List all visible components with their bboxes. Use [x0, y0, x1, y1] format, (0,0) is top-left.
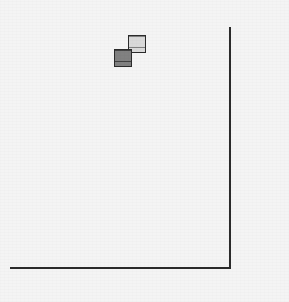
chart-figure [0, 0, 289, 302]
legend-swatch-group [114, 35, 146, 67]
y-axis-ticks [225, 27, 287, 268]
x-axis-line [10, 267, 231, 269]
x-axis-ticks [10, 270, 229, 286]
legend-swatch-developing-icon [114, 49, 132, 67]
legend-item-developing [8, 51, 104, 66]
chart-legend [8, 36, 104, 66]
legend-item-developed [8, 36, 104, 51]
